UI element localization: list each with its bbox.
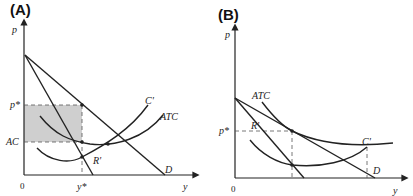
ac-point bbox=[80, 140, 84, 144]
x-axis-label: y bbox=[392, 185, 398, 196]
price-point bbox=[80, 103, 84, 107]
tangency-point bbox=[290, 129, 294, 133]
mr-mc-intersection bbox=[80, 155, 84, 159]
x-axis-label: y bbox=[182, 181, 188, 192]
y-axis-label: p bbox=[11, 24, 17, 35]
ac-label: AC bbox=[5, 136, 19, 147]
panel-b: (B) p y 0 p* R' ATC C' D bbox=[218, 6, 405, 196]
mr-mc-intersection bbox=[290, 163, 294, 167]
mc-label: C' bbox=[145, 95, 155, 106]
mr-label: R' bbox=[250, 120, 260, 131]
origin-label: 0 bbox=[231, 184, 236, 194]
panel-a-label: (A) bbox=[10, 1, 31, 18]
p-star-label: p* bbox=[9, 99, 20, 110]
p-star-label: p* bbox=[218, 125, 229, 136]
mr-label: R' bbox=[92, 155, 102, 166]
monopolistic-competition-diagram: (A) p y 0 p* AC y* R' C' ATC D (B) bbox=[0, 0, 413, 196]
demand-label: D bbox=[164, 164, 173, 175]
atc-min-point bbox=[106, 142, 110, 146]
panel-b-label: (B) bbox=[218, 6, 239, 23]
y-star-label: y* bbox=[76, 181, 86, 192]
marginal-revenue-curve bbox=[235, 98, 304, 178]
atc-label: ATC bbox=[159, 111, 178, 122]
average-total-cost-curve bbox=[262, 102, 393, 145]
y-axis-label: p bbox=[224, 29, 230, 40]
profit-area bbox=[24, 105, 82, 142]
atc-label: ATC bbox=[251, 90, 270, 101]
demand-label: D bbox=[372, 165, 381, 176]
origin-label: 0 bbox=[20, 181, 25, 191]
mc-label: C' bbox=[362, 136, 372, 147]
panel-a: (A) p y 0 p* AC y* R' C' ATC D bbox=[5, 1, 196, 192]
